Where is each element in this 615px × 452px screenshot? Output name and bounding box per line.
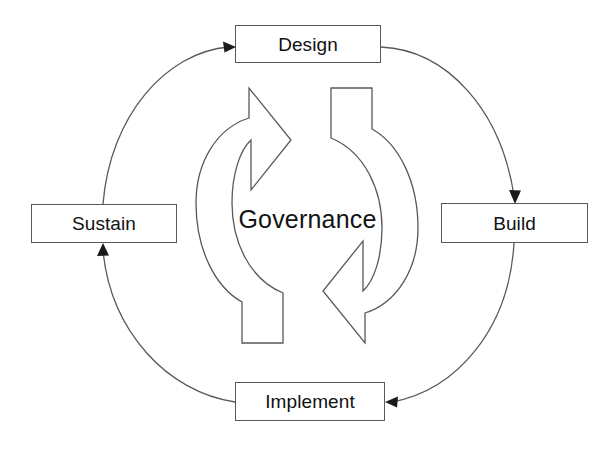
node-implement[interactable]: Implement xyxy=(235,382,385,421)
node-sustain-label: Sustain xyxy=(72,214,136,233)
arrowhead-into-build-icon xyxy=(509,190,521,204)
node-design-label: Design xyxy=(278,35,338,54)
node-design[interactable]: Design xyxy=(235,25,381,63)
recycle-arrow-right-icon xyxy=(323,88,418,343)
node-implement-label: Implement xyxy=(265,392,355,411)
diagram-canvas: Governance Design Build Implement Sustai… xyxy=(0,0,615,452)
recycle-arrow-left-icon xyxy=(196,88,291,343)
arrowhead-into-implement-icon xyxy=(385,397,398,408)
node-build[interactable]: Build xyxy=(441,203,588,243)
node-build-label: Build xyxy=(493,214,536,233)
node-sustain[interactable]: Sustain xyxy=(31,204,177,243)
arrowhead-into-sustain-icon xyxy=(97,243,109,256)
